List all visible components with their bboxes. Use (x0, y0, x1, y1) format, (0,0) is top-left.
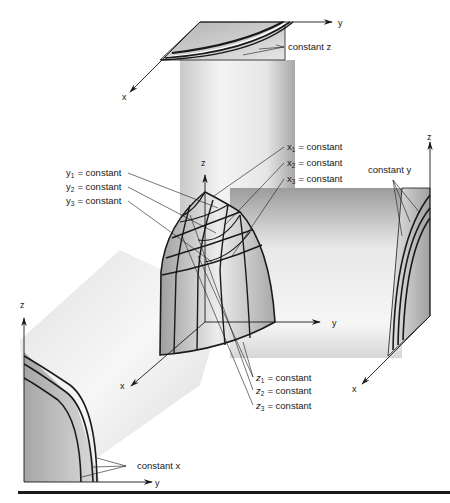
z1-constant-label: z1= constant (255, 372, 312, 384)
top-axis-x-label: x (122, 92, 127, 102)
svg-text:y3= constant: y3= constant (66, 195, 122, 207)
z3-constant-label: z3= constant (255, 400, 312, 412)
constant-x-label: constant x (137, 460, 181, 471)
constant-z-label: constant z (288, 41, 332, 52)
svg-text:z2= constant: z2= constant (255, 385, 312, 397)
svg-text:x1= constant: x1= constant (287, 141, 343, 153)
y1-constant-label: y1= constant (66, 167, 122, 179)
svg-text:x2= constant: x2= constant (287, 157, 343, 169)
right-axis-z-label: z (427, 132, 432, 142)
x1-constant-label: x1= constant (287, 141, 343, 153)
top-axis-y-label: y (338, 18, 343, 28)
svg-text:y2= constant: y2= constant (66, 181, 122, 193)
center-axis-y-label: y (332, 318, 337, 328)
y2-constant-label: y2= constant (66, 181, 122, 193)
y3-constant-label: y3= constant (66, 195, 122, 207)
center-axis-x-label: x (120, 381, 125, 391)
x2-constant-label: x2= constant (287, 157, 343, 169)
svg-text:z1= constant: z1= constant (255, 372, 312, 384)
left-axis-z-label: z (20, 300, 25, 310)
center-axis-z-label: z (201, 158, 206, 168)
svg-text:z3= constant: z3= constant (255, 400, 312, 412)
left-axis-y-label: y (155, 478, 160, 488)
constant-y-label: constant y (368, 164, 412, 175)
right-axis-x-label: x (352, 384, 357, 394)
svg-text:x3= constant: x3= constant (287, 173, 343, 185)
svg-text:y1= constant: y1= constant (66, 167, 122, 179)
x3-constant-label: x3= constant (287, 173, 343, 185)
diagram-canvas: y x constant z z x constant y z (0, 0, 450, 503)
bottom-rule (18, 491, 450, 494)
z2-constant-label: z2= constant (255, 385, 312, 397)
